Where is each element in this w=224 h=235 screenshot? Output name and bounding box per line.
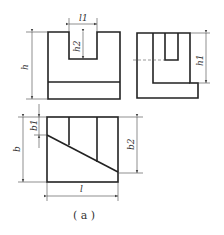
orthographic-drawing: l1 h2 h h1 b b1 <box>0 0 224 235</box>
dim-label-h2: h2 <box>72 40 82 52</box>
figure-caption: ( a ) <box>73 209 95 222</box>
top-view: b b1 b2 l <box>12 104 143 201</box>
dim-label-h1: h1 <box>195 54 205 66</box>
dim-label-l1: l1 <box>79 13 88 23</box>
dim-label-b1: b1 <box>29 120 39 132</box>
dim-label-h: h <box>20 64 30 70</box>
dim-label-b2: b2 <box>126 138 136 150</box>
dim-label-b: b <box>12 146 22 152</box>
dim-label-l: l <box>80 184 83 194</box>
front-view: l1 h2 h <box>20 13 120 99</box>
side-view: h1 <box>133 33 210 98</box>
